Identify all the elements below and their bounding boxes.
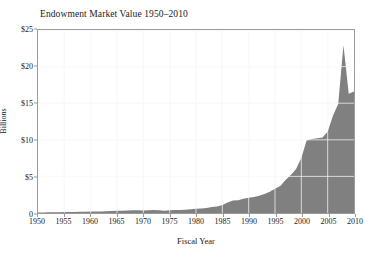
y-axis-label: Billions xyxy=(0,108,8,133)
x-axis-label: Fiscal Year xyxy=(177,236,215,246)
x-axis-tick-mark xyxy=(249,214,250,217)
y-axis-tick-label: $15 xyxy=(21,99,33,108)
x-axis-tick-mark xyxy=(329,214,330,217)
x-axis-tick-mark xyxy=(117,214,118,217)
chart-title: Endowment Market Value 1950–2010 xyxy=(40,9,188,19)
x-axis-tick-mark xyxy=(170,214,171,217)
x-axis-tick-mark xyxy=(355,214,356,217)
x-axis-tick-mark xyxy=(196,214,197,217)
y-axis-tick-label: $5 xyxy=(25,173,33,182)
x-axis-tick-mark xyxy=(64,214,65,217)
x-axis-tick-mark xyxy=(90,214,91,217)
x-axis-tick-label: 1955 xyxy=(56,217,72,226)
x-axis-tick-label: 1995 xyxy=(268,217,284,226)
y-axis-tick-label: 0 xyxy=(29,210,33,219)
x-axis-tick-label: 1985 xyxy=(215,217,231,226)
area-series xyxy=(38,30,354,213)
y-axis-tick-label: $20 xyxy=(21,62,33,71)
x-axis-tick-label: 1990 xyxy=(241,217,257,226)
x-axis-tick-mark xyxy=(276,214,277,217)
x-axis-tick-label: 1975 xyxy=(162,217,178,226)
x-axis-tick-mark xyxy=(302,214,303,217)
chart-figure: Endowment Market Value 1950–2010 $25$20$… xyxy=(0,0,372,257)
y-axis-tick-label: $10 xyxy=(21,136,33,145)
x-axis-tick-label: 2000 xyxy=(294,217,310,226)
plot-area xyxy=(37,29,355,214)
x-axis-tick-label: 2005 xyxy=(321,217,337,226)
x-axis-tick-label: 1960 xyxy=(82,217,98,226)
x-axis-tick-mark xyxy=(223,214,224,217)
x-axis-tick-label: 1980 xyxy=(188,217,204,226)
x-axis-tick-label: 1965 xyxy=(109,217,125,226)
y-axis-tick-label: $25 xyxy=(21,25,33,34)
x-axis-tick-mark xyxy=(37,214,38,217)
x-axis-tick-label: 2010 xyxy=(347,217,363,226)
x-axis-tick-label: 1970 xyxy=(135,217,151,226)
x-axis-tick-label: 1950 xyxy=(29,217,45,226)
x-axis-tick-mark xyxy=(143,214,144,217)
